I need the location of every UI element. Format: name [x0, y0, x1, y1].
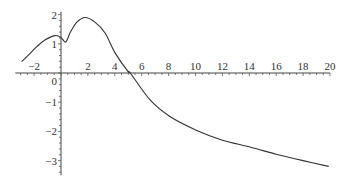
x-tick-label: 10	[190, 60, 202, 72]
x-tick-label: 18	[298, 60, 310, 72]
series-curve	[22, 18, 329, 167]
y-tick-label: −2	[45, 125, 57, 137]
x-tick-label: 16	[271, 60, 283, 72]
y-tick-label: 0	[52, 75, 58, 87]
x-tick-label: −2	[28, 60, 40, 72]
x-tick-label: 6	[139, 60, 145, 72]
y-tick-label: 2	[52, 9, 58, 21]
x-tick-label: 12	[217, 60, 228, 72]
x-tick-label: 4	[112, 60, 118, 72]
x-tick-label: 14	[244, 60, 256, 72]
y-tick-label: 1	[52, 38, 58, 50]
x-tick-label: 8	[166, 60, 172, 72]
tick-labels: −22468101214161820210−1−2−3	[28, 9, 336, 167]
y-tick-label: −3	[45, 155, 57, 167]
axes	[15, 12, 330, 176]
x-tick-label: 20	[325, 60, 337, 72]
y-tick-label: −1	[45, 96, 57, 108]
function-plot: −22468101214161820210−1−2−3	[0, 0, 345, 183]
x-tick-label: 2	[85, 60, 91, 72]
ticks	[21, 15, 330, 173]
